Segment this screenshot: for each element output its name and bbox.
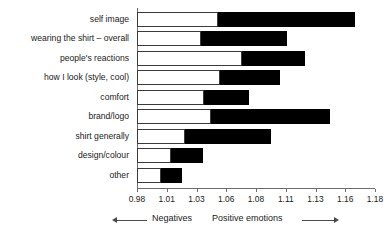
bar-segment-negatives — [137, 109, 211, 124]
category-label: self image — [90, 15, 129, 24]
x-axis-tick-label: 1.01 — [159, 194, 175, 204]
bar-row — [137, 148, 375, 163]
bar-row — [137, 31, 375, 46]
bar-segment-positive-emotions — [211, 109, 330, 124]
bar-segment-negatives — [137, 51, 242, 66]
negatives-legend-line — [117, 220, 147, 221]
negatives-legend-label: Negatives — [152, 212, 192, 224]
x-axis-tick — [167, 189, 168, 192]
bar-segment-negatives — [137, 129, 185, 144]
x-axis-tick — [316, 189, 317, 192]
plot-area: 0.981.011.031.061.081.111.131.161.18 — [137, 8, 375, 188]
bar-row — [137, 168, 375, 183]
bar-row — [137, 70, 375, 85]
right-arrow-icon — [334, 217, 339, 223]
bar-row — [137, 129, 375, 144]
bar-segment-positive-emotions — [171, 148, 203, 163]
category-label: wearing the shirt – overall — [31, 34, 129, 43]
x-axis-tick — [197, 189, 198, 192]
bar-segment-positive-emotions — [161, 168, 182, 183]
bar-segment-negatives — [137, 168, 161, 183]
category-label: shirt generally — [76, 132, 130, 141]
bar-segment-positive-emotions — [218, 12, 355, 27]
bar-row — [137, 109, 375, 124]
positives-legend-label: Positive emotions — [212, 212, 283, 224]
bar-segment-negatives — [137, 70, 220, 85]
x-axis-tick-label: 1.16 — [337, 194, 353, 204]
x-axis-tick-label: 1.06 — [218, 194, 234, 204]
x-axis-tick — [137, 189, 138, 192]
x-axis-tick — [226, 189, 227, 192]
x-axis-tick — [375, 189, 376, 192]
bar-row — [137, 51, 375, 66]
x-axis-tick — [345, 189, 346, 192]
positives-legend-line — [302, 220, 334, 221]
category-label: design/colour — [78, 151, 129, 160]
stacked-bar-chart: self imagewearing the shirt – overallpeo… — [0, 0, 388, 245]
bar-segment-positive-emotions — [185, 129, 272, 144]
bar-segment-negatives — [137, 90, 204, 105]
x-axis-tick-label: 1.03 — [188, 194, 204, 204]
bar-segment-positive-emotions — [220, 70, 280, 85]
bar-segment-negatives — [137, 12, 218, 27]
category-label: comfort — [100, 93, 129, 102]
category-label: people's reactions — [60, 54, 129, 63]
bar-segment-positive-emotions — [204, 90, 249, 105]
bar-segment-positive-emotions — [201, 31, 287, 46]
category-label: brand/logo — [88, 112, 129, 121]
x-axis-tick-label: 1.08 — [248, 194, 264, 204]
category-label: other — [109, 171, 129, 180]
x-axis-tick — [256, 189, 257, 192]
bar-row — [137, 12, 375, 27]
x-axis-tick — [286, 189, 287, 192]
bar-segment-negatives — [137, 148, 171, 163]
category-axis-labels: self imagewearing the shirt – overallpeo… — [0, 8, 133, 188]
x-axis-tick-label: 1.11 — [278, 194, 294, 204]
x-axis-tick-label: 1.13 — [307, 194, 323, 204]
bar-segment-negatives — [137, 31, 201, 46]
bar-row — [137, 90, 375, 105]
axis-direction-legend: Negatives Positive emotions — [0, 212, 388, 234]
x-axis-tick-label: 0.98 — [129, 194, 145, 204]
bar-segment-positive-emotions — [242, 51, 305, 66]
category-label: how I look (style, cool) — [44, 73, 129, 82]
x-axis-tick-label: 1.18 — [367, 194, 383, 204]
